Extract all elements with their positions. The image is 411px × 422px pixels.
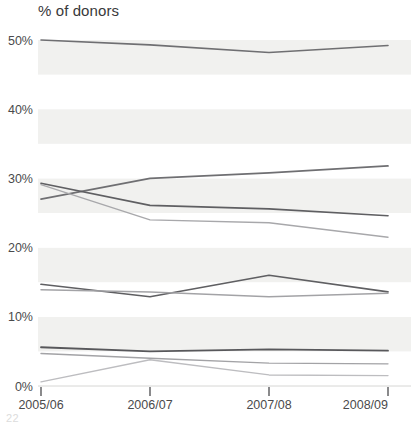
y-axis-tick-label: 10%	[8, 310, 33, 324]
grid-band	[38, 317, 411, 352]
y-axis-tick-label: 30%	[8, 172, 33, 186]
grid-band	[38, 109, 411, 144]
line-chart-svg: 0%10%20%30%40%50% 2005/062006/072007/082…	[0, 0, 411, 422]
gridline-bands	[38, 40, 411, 386]
y-axis-tick-label: 40%	[8, 103, 33, 117]
x-axis-tick-labels: 2005/062006/072007/082008/09	[18, 398, 388, 412]
x-axis-tick-label: 2008/09	[343, 398, 388, 412]
x-axis-tick-label: 2007/08	[246, 398, 291, 412]
grid-band	[38, 75, 411, 110]
grid-band	[38, 213, 411, 248]
chart-plot-area: 0%10%20%30%40%50% 2005/062006/072007/082…	[0, 0, 411, 422]
y-axis-tick-label: 0%	[15, 380, 33, 394]
x-axis-ticks	[41, 387, 388, 396]
chart-figure: % of donors 0%10%20%30%40%50% 2005/06200…	[0, 0, 411, 422]
y-axis-tick-label: 20%	[8, 241, 33, 255]
grid-band	[38, 144, 411, 179]
x-axis-tick-label: 2005/06	[18, 398, 63, 412]
x-axis-tick-label: 2006/07	[127, 398, 172, 412]
page-number: 22	[6, 412, 19, 422]
y-axis-tick-labels: 0%10%20%30%40%50%	[8, 34, 33, 394]
grid-band	[38, 40, 411, 75]
grid-band	[38, 248, 411, 283]
y-axis-tick-label: 50%	[8, 34, 33, 48]
